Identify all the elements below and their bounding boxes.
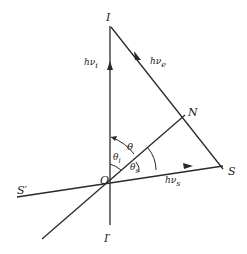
theta-s-arc-outer — [148, 148, 156, 170]
label-S: S — [228, 165, 236, 178]
label-I: I — [105, 11, 111, 24]
label-hv-e: hνe — [150, 56, 166, 69]
incident-arrow-icon — [107, 61, 113, 70]
scattering-geometry-diagram: I I′ O N S S′ hνi hνe hνs θ θi θs — [0, 0, 247, 254]
theta-arrow-icon — [111, 136, 117, 141]
normal-line-ON — [42, 115, 185, 239]
label-S-prime: S′ — [17, 184, 28, 197]
label-hv-s: hνs — [165, 175, 180, 188]
label-theta-i: θi — [113, 152, 121, 165]
label-O: O — [100, 174, 109, 187]
label-N: N — [187, 106, 198, 119]
label-hv-i: hνi — [84, 57, 98, 70]
scattered-arrow-icon — [183, 163, 193, 169]
label-theta-s: θs — [130, 162, 139, 175]
label-I-prime: I′ — [103, 232, 111, 245]
emission-arrow-icon — [134, 51, 141, 60]
label-theta: θ — [127, 141, 133, 152]
diagram-canvas: I I′ O N S S′ hνi hνe hνs θ θi θs — [0, 0, 247, 254]
